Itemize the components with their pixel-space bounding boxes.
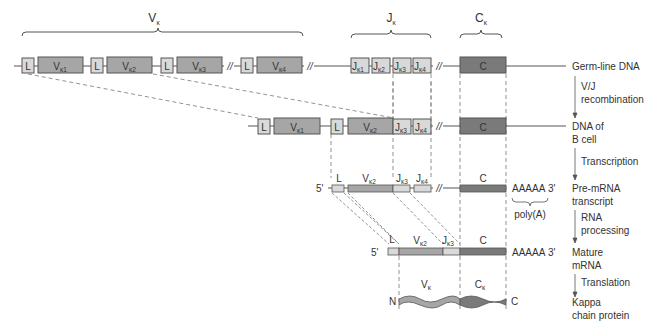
vj-recombination-step-line1: V/J <box>581 81 595 92</box>
translation-step: Translation <box>581 277 630 288</box>
c-kappa-region-label: Cκ <box>460 11 502 38</box>
svg-text:C: C <box>479 235 486 246</box>
svg-text:Vκ2: Vκ2 <box>413 235 427 247</box>
v-kappa-region-label: Vκ <box>22 11 303 36</box>
five-prime-label: 5' <box>316 183 324 194</box>
svg-text:Jκ4: Jκ4 <box>416 173 428 185</box>
pre-mrna-l-exon <box>332 185 344 192</box>
mature-mrna-label-line2: mRNA <box>572 260 602 271</box>
protein-label-line2: chain protein <box>572 310 629 321</box>
svg-text:C: C <box>479 122 486 133</box>
svg-text:L: L <box>244 61 250 72</box>
pre-mrna-label-line1: Pre-mRNA <box>572 183 621 194</box>
v-domain <box>399 296 460 308</box>
mature-mrna-row: 5' L Vκ2 Jκ3 C AAAAA 3' Mature mRNA <box>371 234 604 271</box>
poly-a-label: poly(A) <box>514 209 546 220</box>
poly-a-tail: AAAAA <box>512 183 546 194</box>
n-terminus-label: N <box>389 296 396 307</box>
mature-mrna-l-exon <box>388 248 399 255</box>
bcell-dna-label-line2: B cell <box>572 134 596 145</box>
germline-dna-label: Germ-line DNA <box>572 61 640 72</box>
svg-text:L: L <box>389 234 395 245</box>
svg-text:L: L <box>164 61 170 72</box>
bcell-dna-label-line1: DNA of <box>572 121 604 132</box>
poly-a-tail: AAAAA <box>512 247 546 258</box>
j-kappa-region-label: Jκ <box>351 11 431 38</box>
poly-a-bracket <box>512 198 548 206</box>
svg-text:Vκ2: Vκ2 <box>362 173 376 185</box>
c-terminus-label: C <box>511 296 518 307</box>
svg-text:C: C <box>479 173 486 184</box>
svg-text:3': 3' <box>548 247 556 258</box>
svg-text:Vκ: Vκ <box>421 279 432 291</box>
bcell-dna-row: L Vκ1 L Vκ2 Jκ3 Jκ4 // C DNA of B cell <box>248 118 604 145</box>
svg-text:Cκ: Cκ <box>475 11 488 26</box>
mature-mrna-jk3-exon <box>443 248 460 255</box>
rna-processing-step-line2: processing <box>581 225 629 236</box>
splicing-guide-lines <box>332 193 460 244</box>
pre-mrna-vk2-exon <box>348 185 393 192</box>
vj-recombination-step-line2: recombination <box>581 94 644 105</box>
pre-mrna-c-exon <box>460 185 506 192</box>
pre-mrna-label-line2: transcript <box>572 196 613 207</box>
pre-mrna-jk4-exon <box>414 185 431 192</box>
mature-mrna-c-exon <box>460 248 506 255</box>
mature-mrna-vk2-exon <box>399 248 443 255</box>
svg-text:C: C <box>479 61 486 72</box>
protein-label-line1: Kappa <box>572 297 601 308</box>
rna-processing-step-line1: RNA <box>581 212 602 223</box>
svg-text:L: L <box>334 122 340 133</box>
germline-dna-row: L Vκ1 L Vκ2 L Vκ3 // L Vκ4 // Jκ1 Jκ2 Jκ… <box>14 57 640 73</box>
svg-text:L: L <box>94 61 100 72</box>
c-domain <box>460 296 506 308</box>
svg-text:L: L <box>25 61 31 72</box>
pre-mrna-jk3-exon <box>393 185 410 192</box>
svg-text:L: L <box>261 122 267 133</box>
svg-text:Jκ: Jκ <box>386 11 396 26</box>
transcription-step: Transcription <box>581 156 638 167</box>
svg-text:L: L <box>336 173 342 184</box>
svg-text:Cκ: Cκ <box>475 279 486 291</box>
mature-mrna-label-line1: Mature <box>572 247 604 258</box>
kappa-chain-diagram: Vκ Jκ Cκ L Vκ1 L Vκ2 L Vκ3 // L <box>0 0 655 328</box>
five-prime-label: 5' <box>371 247 379 258</box>
svg-text:Jκ3: Jκ3 <box>396 173 408 185</box>
svg-text:Vκ: Vκ <box>148 11 160 26</box>
svg-text:3': 3' <box>548 183 556 194</box>
